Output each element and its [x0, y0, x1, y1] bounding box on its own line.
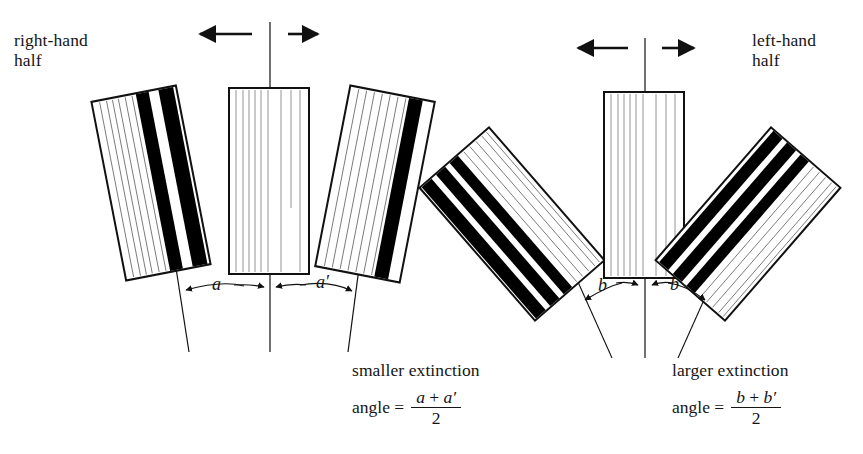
- angle-label-b-prime: b′: [670, 274, 683, 294]
- fraction-right-denominator: 2: [731, 407, 781, 427]
- crystal-left-steep: [420, 127, 605, 320]
- fraction-left: a + a′ 2: [411, 388, 461, 428]
- crystal-left-tilted: [91, 85, 210, 280]
- num-b-prime: b′: [764, 387, 777, 407]
- angle-label-a: a: [212, 274, 221, 294]
- left-hand-half-group: [420, 38, 841, 358]
- caption-right-line1: larger extinction: [672, 360, 789, 380]
- right-hand-half-group: [91, 22, 434, 352]
- crystal-axis-line-L3: [348, 268, 359, 352]
- num-op: +: [425, 387, 444, 407]
- caption-left-line1: smaller extinction: [352, 360, 480, 380]
- right-hand-half-label: right-hand half: [14, 30, 88, 70]
- crystal-axis-line-L1: [176, 268, 189, 352]
- fraction-left-denominator: 2: [411, 407, 461, 427]
- left-hand-half-label: left-hand half: [752, 30, 816, 70]
- num-a: a: [416, 387, 425, 407]
- num-a-prime: a′: [444, 387, 457, 407]
- caption-left-formula: angle = a + a′ 2: [352, 388, 461, 428]
- caption-left-line2: angle =: [352, 397, 404, 418]
- fraction-right-numerator: b + b′: [731, 388, 781, 407]
- caption-right-line2: angle =: [672, 397, 724, 418]
- fraction-right: b + b′ 2: [731, 388, 781, 428]
- angle-label-b: b: [598, 275, 607, 295]
- num-op-2: +: [745, 387, 764, 407]
- crystal-center-upright: [229, 88, 309, 274]
- angle-arc-a-prime: [276, 283, 352, 291]
- caption-right-formula: angle = b + b′ 2: [672, 388, 781, 428]
- angle-arc-b: [585, 282, 638, 300]
- crystal-right-tilted: [315, 85, 435, 282]
- angle-label-a-prime: a′: [316, 272, 329, 292]
- extinction-angle-diagram: [0, 0, 863, 454]
- angle-arc-a: [186, 284, 264, 290]
- fraction-left-numerator: a + a′: [411, 388, 461, 407]
- num-b: b: [736, 387, 745, 407]
